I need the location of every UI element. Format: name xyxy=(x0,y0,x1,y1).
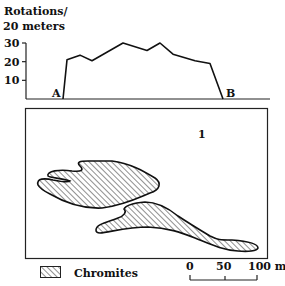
figure: Rotations/ 20 meters 302010 A B 1 Chromi… xyxy=(0,0,285,286)
scale-bar: 0 50 100 m xyxy=(186,260,285,280)
point-b-label: B xyxy=(226,87,235,100)
y-tick-label-10: 10 xyxy=(4,74,20,87)
scale-tick-label-0: 0 xyxy=(186,260,194,273)
y-axis-label-line2: 20 meters xyxy=(3,20,65,33)
y-ticks: 302010 xyxy=(4,37,26,87)
y-axis-label-line1: Rotations/ xyxy=(4,5,68,18)
upper-chromite-body xyxy=(38,161,159,208)
rotation-profile-line xyxy=(63,43,223,99)
lower-chromite-body xyxy=(96,202,258,251)
point-a-label: A xyxy=(51,87,61,100)
chromites-legend-swatch xyxy=(41,267,61,278)
area-label: 1 xyxy=(198,128,206,141)
scale-tick-label-100: 100 m xyxy=(248,260,285,273)
scale-tick-label-50: 50 xyxy=(216,260,232,273)
chromites-legend-label: Chromites xyxy=(74,267,138,280)
y-tick-label-20: 20 xyxy=(4,56,20,69)
y-tick-label-30: 30 xyxy=(4,37,20,50)
